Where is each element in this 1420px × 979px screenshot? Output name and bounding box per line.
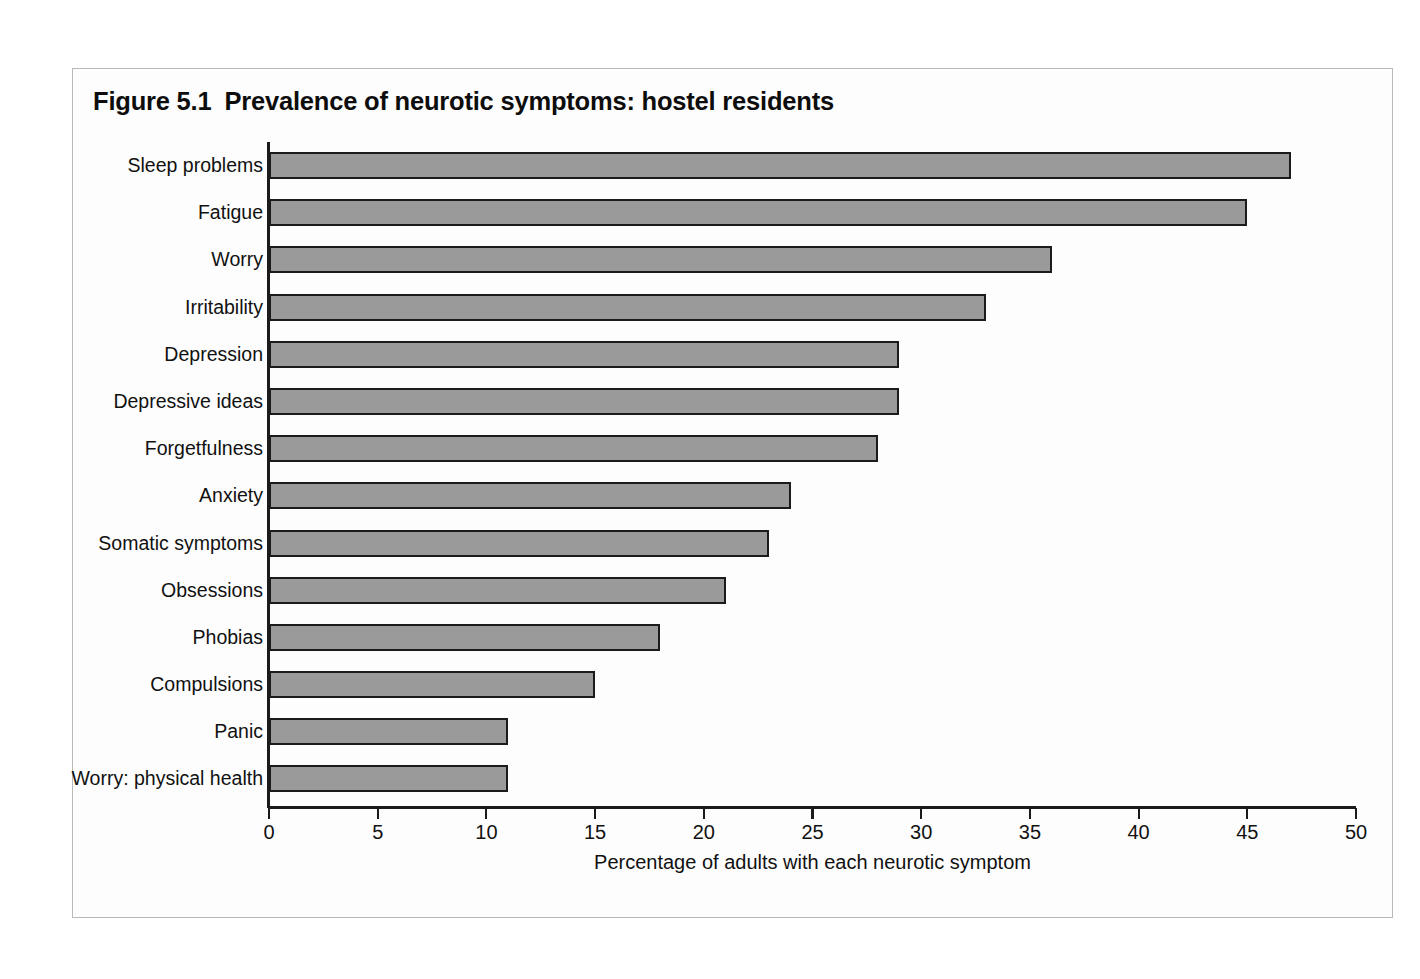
x-axis-tick [377,808,379,819]
bar-rows: Sleep problemsFatigueWorryIrritabilityDe… [73,142,1394,803]
bar-category-label: Irritability [185,284,263,331]
bar [269,294,986,321]
bar-row: Forgetfulness [73,425,1394,472]
bar-track [269,284,1394,331]
bar-category-label: Obsessions [161,567,263,614]
bar [269,765,508,792]
bar-row: Compulsions [73,661,1394,708]
bar-track [269,331,1394,378]
bar [269,530,769,557]
bar [269,341,899,368]
bar-category-label: Panic [214,708,263,755]
x-axis-tick [703,808,705,819]
bar-track [269,614,1394,661]
x-axis-tick-label: 20 [693,821,715,844]
figure-number: Figure 5.1 [93,87,211,115]
figure-frame: Figure 5.1Prevalence of neurotic symptom… [72,68,1393,918]
x-axis-tick-label: 5 [372,821,383,844]
bar-category-label: Sleep problems [128,142,264,189]
x-axis-tick [594,808,596,819]
x-axis-tick [811,808,813,819]
bar-category-label: Depression [164,331,263,378]
bar-track [269,189,1394,236]
bar-category-label: Somatic symptoms [98,520,263,567]
x-axis-tick-label: 0 [263,821,274,844]
x-axis-tick [920,808,922,819]
bar [269,246,1052,273]
chart-plot-area: Sleep problemsFatigueWorryIrritabilityDe… [73,142,1394,842]
bar-category-label: Worry [211,236,263,283]
bar-track [269,236,1394,283]
x-axis-tick-label: 35 [1019,821,1041,844]
bar-row: Irritability [73,284,1394,331]
bar-row: Sleep problems [73,142,1394,189]
bar-track [269,520,1394,567]
bar [269,482,791,509]
x-axis-tick [485,808,487,819]
bar-row: Somatic symptoms [73,520,1394,567]
bar [269,152,1291,179]
x-axis-tick-label: 45 [1236,821,1258,844]
x-axis-tick-label: 30 [910,821,932,844]
bar [269,718,508,745]
x-axis-tick [1029,808,1031,819]
x-axis-tick-label: 50 [1345,821,1367,844]
bar [269,624,660,651]
bar-track [269,708,1394,755]
x-axis-tick-label: 10 [475,821,497,844]
bar-track [269,661,1394,708]
bar-row: Worry [73,236,1394,283]
bar-category-label: Depressive ideas [113,378,263,425]
x-axis-tick [1246,808,1248,819]
bar-track [269,755,1394,802]
bar-track [269,378,1394,425]
bar-row: Depressive ideas [73,378,1394,425]
bar [269,577,726,604]
bar-row: Depression [73,331,1394,378]
x-axis-tick-label: 40 [1127,821,1149,844]
bar-category-label: Forgetfulness [145,425,263,472]
bar-track [269,472,1394,519]
x-axis-tick [1355,808,1357,819]
bar-track [269,425,1394,472]
bar-category-label: Worry: physical health [72,755,263,802]
bar-row: Worry: physical health [73,755,1394,802]
bar [269,388,899,415]
bar-category-label: Phobias [193,614,263,661]
x-axis-tick-label: 25 [801,821,823,844]
bar-row: Obsessions [73,567,1394,614]
bar-row: Fatigue [73,189,1394,236]
bar [269,199,1247,226]
bar-track [269,567,1394,614]
x-axis-tick-label: 15 [584,821,606,844]
bar-row: Phobias [73,614,1394,661]
x-axis-title: Percentage of adults with each neurotic … [269,851,1356,874]
figure-title: Figure 5.1Prevalence of neurotic symptom… [93,87,834,116]
bar-category-label: Compulsions [150,661,263,708]
bar-category-label: Fatigue [198,189,263,236]
figure-page: Figure 5.1Prevalence of neurotic symptom… [0,0,1420,979]
bar-track [269,142,1394,189]
bar [269,435,878,462]
bar [269,671,595,698]
bar-row: Anxiety [73,472,1394,519]
x-axis-tick [268,808,270,819]
figure-title-text: Prevalence of neurotic symptoms: hostel … [224,87,833,115]
x-axis-tick [1138,808,1140,819]
bar-row: Panic [73,708,1394,755]
bar-category-label: Anxiety [199,472,263,519]
